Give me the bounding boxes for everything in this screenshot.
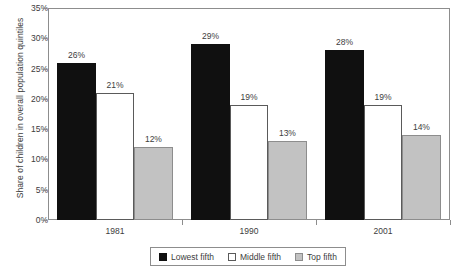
bar-2001-top-fifth bbox=[402, 135, 440, 220]
bar-chart: Share of children in overall population … bbox=[0, 0, 461, 272]
legend-label: Middle fifth bbox=[240, 252, 281, 262]
x-axis-tick-label: 2001 bbox=[374, 226, 393, 236]
bar-2001-middle-fifth bbox=[364, 105, 402, 220]
bar-1990-top-fifth bbox=[268, 141, 306, 220]
y-axis-tick-mark bbox=[43, 159, 47, 160]
bar-value-label: 19% bbox=[240, 92, 257, 102]
legend-label: Lowest fifth bbox=[171, 252, 214, 262]
bar-value-label: 12% bbox=[145, 134, 162, 144]
bar-1990-middle-fifth bbox=[230, 105, 268, 220]
bar-value-label: 19% bbox=[374, 92, 391, 102]
y-axis-tick-label: 15% bbox=[4, 124, 48, 134]
legend-label: Top fifth bbox=[307, 252, 337, 262]
x-axis-tick-label: 1990 bbox=[240, 226, 259, 236]
legend-swatch-icon bbox=[228, 253, 236, 261]
y-axis-tick-label: 20% bbox=[4, 94, 48, 104]
y-axis: 0%5%10%15%20%25%30%35% bbox=[0, 8, 48, 220]
y-axis-tick-mark bbox=[43, 220, 47, 221]
bar-value-label: 26% bbox=[68, 50, 85, 60]
legend-swatch-icon bbox=[295, 253, 303, 261]
y-axis-tick-label: 10% bbox=[4, 154, 48, 164]
y-axis-tick-label: 0% bbox=[4, 215, 48, 225]
x-axis-separator-tick bbox=[182, 220, 183, 225]
bar-value-label: 14% bbox=[413, 122, 430, 132]
bar-value-label: 29% bbox=[202, 31, 219, 41]
bar-value-label: 28% bbox=[336, 37, 353, 47]
bar-1981-lowest-fifth bbox=[57, 63, 95, 220]
y-axis-tick-mark bbox=[43, 190, 47, 191]
x-axis-separator-tick bbox=[450, 220, 451, 225]
y-axis-tick-mark bbox=[43, 69, 47, 70]
legend-item[interactable]: Lowest fifth bbox=[159, 252, 214, 262]
x-axis-tick-label: 1981 bbox=[106, 226, 125, 236]
bar-1981-top-fifth bbox=[134, 147, 172, 220]
bar-1981-middle-fifth bbox=[96, 93, 134, 220]
bar-1990-lowest-fifth bbox=[191, 44, 229, 220]
y-axis-tick-mark bbox=[43, 99, 47, 100]
legend-item[interactable]: Top fifth bbox=[295, 252, 337, 262]
legend-item[interactable]: Middle fifth bbox=[228, 252, 281, 262]
bar-2001-lowest-fifth bbox=[325, 50, 363, 220]
y-axis-tick-mark bbox=[43, 129, 47, 130]
y-axis-tick-label: 5% bbox=[4, 185, 48, 195]
y-axis-tick-label: 30% bbox=[4, 33, 48, 43]
legend-swatch-icon bbox=[159, 253, 167, 261]
y-axis-tick-mark bbox=[43, 8, 47, 9]
bar-value-label: 13% bbox=[279, 128, 296, 138]
chart-legend: Lowest fifthMiddle fifthTop fifth bbox=[150, 247, 346, 266]
bar-value-label: 21% bbox=[106, 80, 123, 90]
y-axis-tick-mark bbox=[43, 38, 47, 39]
y-axis-tick-label: 35% bbox=[4, 3, 48, 13]
x-axis-separator-tick bbox=[316, 220, 317, 225]
y-axis-tick-label: 25% bbox=[4, 64, 48, 74]
